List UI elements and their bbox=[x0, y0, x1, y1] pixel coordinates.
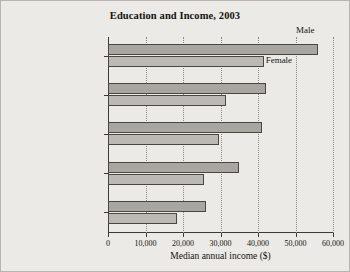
bar bbox=[108, 162, 239, 173]
x-tick-label: 60,000 bbox=[322, 239, 344, 248]
gridline bbox=[333, 37, 334, 233]
x-tick-mark bbox=[296, 233, 297, 237]
bar bbox=[108, 174, 204, 185]
x-tick-label: 50,000 bbox=[285, 239, 307, 248]
bar bbox=[108, 201, 206, 212]
chart-figure: Education and Income, 2003 010,00020,000… bbox=[0, 0, 350, 272]
x-tick-mark bbox=[221, 233, 222, 237]
plot-area: 010,00020,00030,00040,00050,00060,000 Ba… bbox=[108, 37, 333, 233]
bar bbox=[108, 213, 177, 224]
x-tick-label: 10,000 bbox=[135, 239, 157, 248]
x-tick-label: 40,000 bbox=[247, 239, 269, 248]
chart-title: Education and Income, 2003 bbox=[1, 10, 349, 21]
series-label-female: Female bbox=[266, 55, 293, 65]
x-tick-mark bbox=[258, 233, 259, 237]
bar bbox=[108, 134, 219, 145]
x-tick-label: 20,000 bbox=[172, 239, 194, 248]
gridline bbox=[296, 37, 297, 233]
bar bbox=[108, 95, 226, 106]
x-tick-label: 30,000 bbox=[210, 239, 232, 248]
bar bbox=[108, 83, 266, 94]
bar bbox=[108, 122, 262, 133]
x-tick-mark bbox=[146, 233, 147, 237]
x-axis-title: Median annual income ($) bbox=[108, 251, 333, 261]
bar bbox=[108, 56, 264, 67]
x-tick-label: 0 bbox=[106, 239, 110, 248]
x-tick-mark bbox=[108, 233, 109, 237]
x-tick-mark bbox=[183, 233, 184, 237]
series-label-male: Male bbox=[296, 25, 315, 35]
x-tick-mark bbox=[333, 233, 334, 237]
bar bbox=[108, 44, 318, 55]
